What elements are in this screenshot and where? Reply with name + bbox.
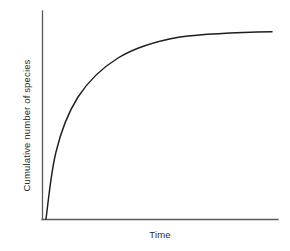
- species-accumulation-chart: Cumulative number of species Time: [0, 0, 290, 251]
- chart-canvas: [0, 0, 290, 251]
- x-axis-label: Time: [42, 230, 278, 240]
- accumulation-curve: [46, 32, 272, 219]
- y-axis-label: Cumulative number of species: [22, 60, 32, 192]
- y-axis-label-wrapper: Cumulative number of species: [22, 0, 32, 251]
